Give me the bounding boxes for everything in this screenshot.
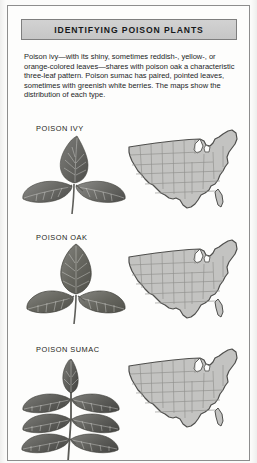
poison-sumac-leaf-icon [16,359,126,461]
info-box-frame: IDENTIFYING POISON PLANTS Poison ivy—wit… [7,5,250,461]
panel-description: Poison ivy—with its shiny, sometimes red… [24,52,236,100]
entry-label-poison-ivy: POISON IVY [36,124,84,133]
us-distribution-map-poison-oak [125,229,247,325]
us-distribution-map-poison-ivy [125,119,247,215]
scan-page: IDENTIFYING POISON PLANTS Poison ivy—wit… [0,0,257,463]
entry-poison-ivy: POISON IVY [8,111,250,216]
poison-oak-leaf-icon [26,243,126,325]
poison-ivy-leaf-icon [20,135,128,215]
entry-poison-sumac: POISON SUMAC [8,333,250,461]
entry-label-poison-sumac: POISON SUMAC [36,345,100,354]
us-distribution-map-poison-sumac [125,338,247,434]
entry-label-poison-oak: POISON OAK [36,233,87,242]
entry-poison-oak: POISON OAK [8,221,250,329]
page-title: IDENTIFYING POISON PLANTS [54,25,204,35]
panel-title-bar: IDENTIFYING POISON PLANTS [21,19,237,40]
